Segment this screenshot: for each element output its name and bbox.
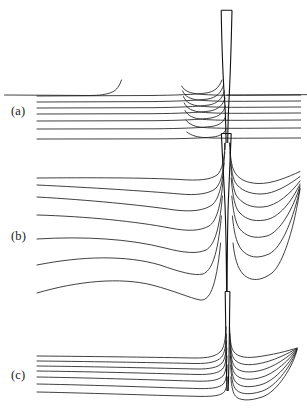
panel-label-c: (c): [11, 368, 25, 383]
panel-label-a: (a): [11, 104, 25, 119]
plot-background: [0, 0, 307, 416]
figure-panel-container: (a) (b) (c): [0, 0, 307, 416]
curve-family-plot: [0, 0, 307, 416]
panel-label-b: (b): [11, 229, 26, 244]
